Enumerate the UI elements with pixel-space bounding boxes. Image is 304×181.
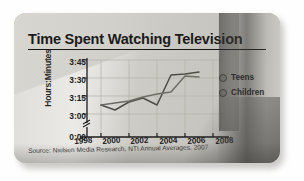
x-tick-1998: 1998 [74, 136, 93, 146]
circle-marker-icon [219, 74, 227, 82]
legend-item-children[interactable]: Children [219, 88, 264, 97]
legend-item-teens[interactable]: Teens [219, 73, 264, 82]
line-chart: Hours:Minutes 3:45 3:30 3:15 3:00 0:00 1… [14, 13, 280, 163]
legend-label-teens: Teens [231, 73, 254, 82]
legend-label-children: Children [231, 88, 264, 97]
circle-marker-icon [219, 89, 227, 97]
chart-legend: Teens Children [219, 73, 264, 103]
screenshot-root: Time Spent Watching Television Hours:Min… [0, 0, 304, 181]
x-tick-2008: 2008 [215, 136, 234, 146]
chart-card: Time Spent Watching Television Hours:Min… [14, 13, 280, 163]
